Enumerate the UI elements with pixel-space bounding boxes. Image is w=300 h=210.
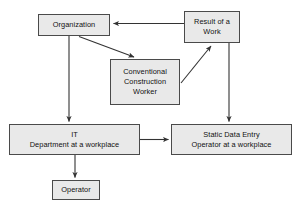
node-result-of-a-work[interactable]: Result of a Work [184,11,240,43]
node-static-data-entry-line-2: Operator at a workplace [191,140,271,150]
node-organization-line-1: Organization [53,20,96,30]
node-result-of-a-work-line-1: Result of a [194,17,230,27]
node-organization[interactable]: Organization [38,14,110,36]
node-result-of-a-work-line-2: Work [203,27,220,37]
node-operator-line-1: Operator [61,185,91,195]
node-it-department-line-1: IT [71,130,78,140]
node-it-department-line-2: Department at a workplace [30,140,120,150]
node-conventional-line-2: Construction [124,77,166,87]
flowchart-diagram: Organization Result of a Work Convention… [0,0,300,210]
edge-organization-to-conventional [79,37,134,58]
node-it-department[interactable]: IT Department at a workplace [9,124,140,155]
node-conventional-line-3: Worker [133,87,157,97]
edge-conventional-to-result [181,46,211,83]
node-conventional-construction-worker[interactable]: Conventional Construction Worker [110,59,180,105]
node-static-data-entry-operator[interactable]: Static Data Entry Operator at a workplac… [171,124,292,155]
node-static-data-entry-line-1: Static Data Entry [203,130,259,140]
node-conventional-line-1: Conventional [123,67,167,77]
node-operator[interactable]: Operator [52,180,100,200]
